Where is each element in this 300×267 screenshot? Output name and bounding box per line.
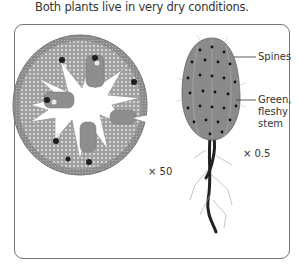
stem-label-line2: fleshy — [258, 106, 288, 118]
right-magnification: × 0.5 — [243, 148, 270, 160]
left-magnification: × 50 — [148, 166, 172, 178]
spines-label: Spines — [258, 51, 291, 63]
cross-section-illustration — [13, 35, 150, 175]
stem-label-line3: stem — [258, 118, 283, 130]
figure-illustrations — [0, 0, 300, 267]
cactus-illustration — [176, 35, 256, 232]
stem-label-line1: Green, — [258, 94, 291, 106]
